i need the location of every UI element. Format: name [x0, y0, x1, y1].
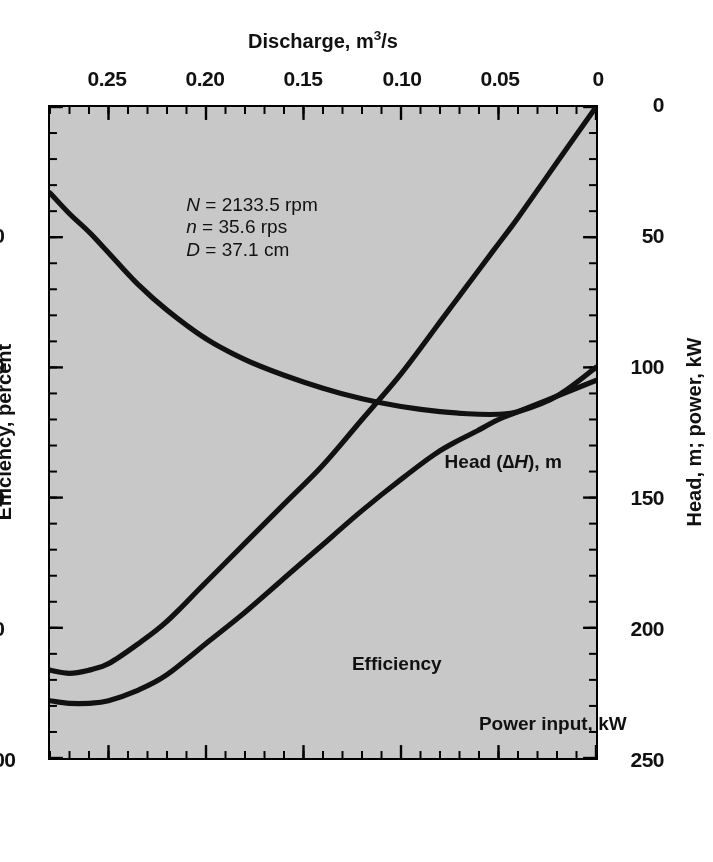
curve-label-power-input: Power input, kW: [479, 713, 627, 735]
param-symbol-N: N: [187, 195, 201, 216]
x-axis-tick-0.25: 0.25: [88, 67, 127, 91]
param-value-n: = 35.6 rps: [197, 217, 287, 238]
y-axis-left-title: Head, m; power, kW: [683, 338, 706, 527]
curve-label-efficiency: Efficiency: [352, 653, 442, 675]
plot-area: [48, 105, 598, 760]
head-label-variable: H: [514, 451, 528, 472]
y-axis-left-tick-250: 250: [610, 748, 664, 772]
param-value-D: = 37.1 cm: [200, 239, 289, 260]
pump-performance-chart: 050100150200250 Head, m; power, kW 02040…: [0, 0, 713, 862]
x-axis-title-tail: /s: [381, 30, 398, 52]
y-axis-left-tick-150: 150: [610, 486, 664, 510]
y-axis-right-tick-80: 80: [0, 617, 36, 641]
head-label-post: ), m: [528, 451, 562, 472]
x-axis-tick-0.05: 0.05: [480, 67, 519, 91]
param-line-speed-rps: n = 35.6 rps: [187, 217, 319, 239]
power-curve: [50, 380, 596, 703]
y-axis-left-tick-50: 50: [610, 224, 664, 248]
x-axis-tick-0: 0: [592, 67, 603, 91]
param-value-N: = 2133.5 rpm: [200, 195, 318, 216]
param-line-diameter: D = 37.1 cm: [187, 239, 319, 261]
x-axis-tick-0.10: 0.10: [382, 67, 421, 91]
y-axis-right-tick-0: 0: [0, 93, 36, 117]
param-symbol-n: n: [187, 217, 198, 238]
figure-rotation-wrapper: 050100150200250 Head, m; power, kW 02040…: [0, 0, 713, 862]
y-axis-right-title: Efficiency, percent: [0, 344, 16, 520]
head-label-pre: Head (: [444, 451, 502, 472]
y-axis-right-tick-100: 100: [0, 748, 36, 772]
param-line-speed-rpm: N = 2133.5 rpm: [187, 195, 319, 217]
x-axis-tick-0.15: 0.15: [284, 67, 323, 91]
param-symbol-D: D: [187, 239, 201, 260]
operating-parameters-block: N = 2133.5 rpm n = 35.6 rps D = 37.1 cm: [187, 195, 319, 262]
x-axis-title-main: Discharge, m: [248, 30, 374, 52]
y-axis-right-tick-20: 20: [0, 224, 36, 248]
plot-canvas: [50, 107, 596, 758]
x-axis-title: Discharge, m3/s: [248, 28, 398, 53]
y-axis-left-tick-200: 200: [610, 617, 664, 641]
delta-symbol: ∆: [503, 451, 515, 472]
y-axis-left-tick-0: 0: [610, 93, 664, 117]
y-axis-left-tick-100: 100: [610, 355, 664, 379]
curve-label-head: Head (∆H), m: [444, 451, 561, 473]
x-axis-tick-0.20: 0.20: [186, 67, 225, 91]
